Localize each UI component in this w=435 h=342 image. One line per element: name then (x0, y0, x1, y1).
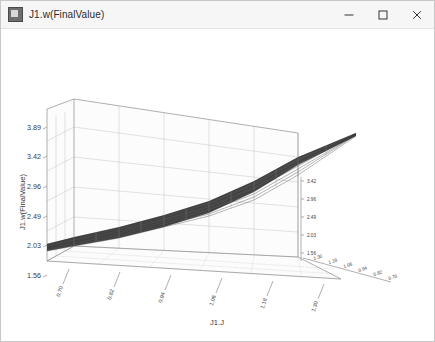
maximize-icon (377, 9, 389, 21)
window-controls (332, 1, 434, 28)
chart-canvas[interactable]: 3.89 3.42 2.96 2.49 2.03 1.56 J1.w(Final… (1, 29, 435, 342)
y-tick-0: 3.89 (27, 123, 41, 132)
surface-plot: 3.89 3.42 2.96 2.49 2.03 1.56 J1.w(Final… (1, 29, 435, 342)
y-tick-3: 2.49 (27, 212, 41, 221)
close-button[interactable] (400, 1, 434, 28)
depth-tick-5: 0.70 (388, 273, 398, 281)
x-axis-title: J1.J (210, 318, 224, 327)
title-bar: J1.w(FinalValue) (1, 1, 434, 29)
right-tick-1: 2.96 (307, 197, 316, 202)
app-icon (8, 7, 23, 22)
plot-window: J1.w(FinalValue) (0, 0, 435, 342)
x-tick-0: 0.70 (55, 285, 64, 297)
y-tick-2: 2.96 (27, 182, 41, 191)
minimize-icon (343, 9, 355, 21)
depth-tick-1: 1.18 (328, 257, 338, 265)
window-title: J1.w(FinalValue) (29, 9, 104, 20)
depth-tick-3: 0.94 (358, 265, 368, 273)
x-tick-3: 1.06 (208, 294, 217, 306)
depth-tick-2: 1.06 (343, 261, 353, 269)
x-tick-5: 1.30 (310, 300, 319, 312)
y-axis: 3.89 3.42 2.96 2.49 2.03 1.56 J1.w(Final… (18, 123, 47, 280)
y-tick-4: 2.03 (27, 241, 41, 250)
x-axis: 0.70 0.82 0.94 1.06 1.18 1.30 J1.J (55, 269, 324, 327)
y-axis-title: J1.w(FinalValue) (18, 174, 27, 230)
right-value-axis: 3.42 2.96 2.49 2.03 1.56 (301, 177, 316, 261)
y-tick-1: 3.42 (27, 152, 41, 161)
y-tick-5: 1.56 (27, 271, 41, 280)
right-tick-0: 3.42 (307, 179, 316, 184)
maximize-button[interactable] (366, 1, 400, 28)
right-tick-2: 2.49 (307, 215, 316, 220)
x-tick-2: 0.94 (157, 291, 166, 303)
left-pane (47, 99, 74, 261)
x-tick-4: 1.18 (259, 297, 268, 309)
depth-tick-4: 0.82 (373, 269, 383, 277)
right-tick-3: 2.03 (307, 233, 316, 238)
x-tick-1: 0.82 (106, 288, 115, 300)
minimize-button[interactable] (332, 1, 366, 28)
close-icon (411, 9, 423, 21)
